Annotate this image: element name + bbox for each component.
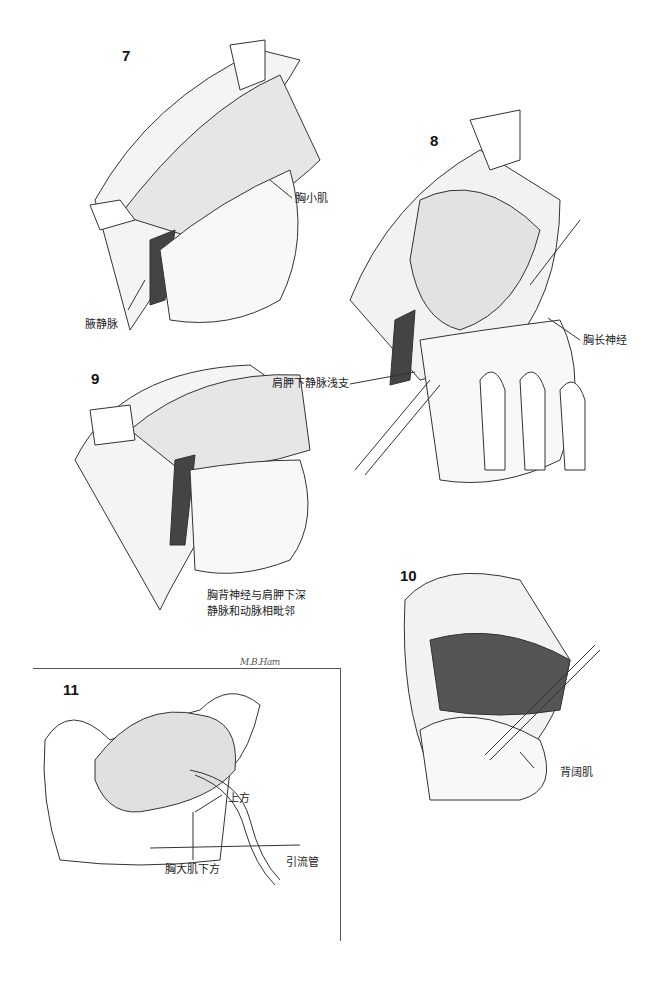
figure-number-9: 9: [91, 370, 99, 387]
label-long-thoracic-nerve: 胸长神经: [583, 333, 627, 348]
figure-7-illustration: [90, 40, 320, 330]
label-thoracodorsal-line2: 静脉和动脉相毗邻: [207, 604, 295, 619]
figure-8-illustration: [350, 110, 585, 483]
figure-9-illustration: [75, 365, 310, 610]
artist-signature: M.B.Ham: [240, 657, 280, 667]
figure-number-10: 10: [400, 567, 417, 584]
label-pectoralis-minor: 胸小肌: [295, 191, 328, 206]
label-subscapular-vein-branch: 肩胛下静脉浅支: [272, 376, 349, 391]
figure-number-7: 7: [122, 47, 130, 64]
label-below-pectoralis-major: 胸大肌下方: [165, 862, 220, 877]
label-axillary-vein: 腋静脉: [85, 317, 118, 332]
figure-number-11: 11: [63, 681, 79, 698]
label-latissimus-dorsi: 背阔肌: [560, 765, 593, 780]
figure-number-8: 8: [430, 132, 438, 149]
figure-11-frame: [33, 668, 341, 941]
label-above: 上方: [228, 791, 250, 806]
label-drain: 引流管: [286, 855, 319, 870]
label-thoracodorsal-line1: 胸背神经与肩胛下深: [207, 588, 306, 603]
